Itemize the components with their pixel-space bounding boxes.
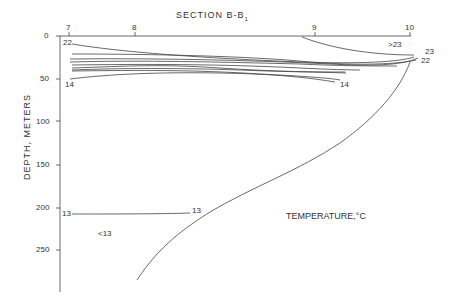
x-tick-7: 7 (66, 24, 70, 32)
x-tick-10: 10 (405, 24, 414, 32)
y-axis-label: DEPTH, METERS (22, 94, 32, 180)
y-tick-200: 200 (36, 204, 49, 212)
y-tick-100: 100 (36, 118, 49, 126)
contour-label-14-left: 14 (65, 81, 74, 89)
y-tick-50: 50 (40, 75, 49, 83)
x-tick-9: 9 (312, 24, 316, 32)
x-tick-8: 8 (132, 24, 136, 32)
chart-title: SECTION B-B1 (176, 10, 249, 22)
contour-label-23: 23 (425, 48, 434, 56)
temperature-annotation: TEMPERATURE,°C (286, 212, 366, 220)
contour-label-22-right: 22 (421, 57, 430, 65)
contour-label-lt13: <13 (98, 230, 112, 238)
y-tick-0: 0 (44, 32, 48, 40)
contour-label-13-right: 13 (192, 207, 201, 215)
contour-label-gt23: >23 (388, 41, 402, 49)
y-tick-150: 150 (36, 161, 49, 169)
isotherm-14 (70, 73, 335, 82)
contour-label-14-right: 14 (340, 81, 349, 89)
bottom-profile (137, 62, 410, 280)
contour-label-13-left: 13 (62, 210, 71, 218)
contour-label-22-left: 22 (63, 39, 72, 47)
isotherm-13 (72, 213, 190, 214)
y-tick-250: 250 (36, 246, 49, 254)
